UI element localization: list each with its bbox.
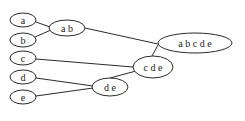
node-cde: c d e xyxy=(133,56,173,78)
node-label: b xyxy=(21,35,26,46)
node-ab: a b xyxy=(49,20,85,36)
edge-a-ab xyxy=(36,22,50,27)
node-label: c xyxy=(21,53,26,64)
node-label: e xyxy=(21,92,26,103)
node-abcde: a b c d e xyxy=(158,33,232,53)
node-label: c d e xyxy=(144,62,163,73)
edge-cde-abcde xyxy=(152,45,158,56)
node-label: d e xyxy=(104,82,117,93)
node-b: b xyxy=(10,33,36,47)
node-de: d e xyxy=(92,78,128,96)
node-label: a b xyxy=(61,23,73,34)
nodes-group: abcdea bd ec d ea b c d e xyxy=(10,13,232,104)
edge-c-cde xyxy=(36,59,133,67)
node-label: a xyxy=(21,15,26,26)
node-c: c xyxy=(10,51,36,65)
node-a: a xyxy=(10,13,36,27)
edge-b-ab xyxy=(35,30,51,37)
node-label: d xyxy=(21,72,26,83)
edge-ab-abcde xyxy=(85,28,158,44)
edge-e-de xyxy=(36,88,93,96)
edge-de-cde xyxy=(110,71,136,78)
node-label: a b c d e xyxy=(178,38,212,49)
node-d: d xyxy=(10,70,36,84)
node-e: e xyxy=(10,90,36,104)
edge-d-de xyxy=(36,78,93,86)
cluster-tree-diagram: abcdea bd ec d ea b c d e xyxy=(0,0,245,121)
